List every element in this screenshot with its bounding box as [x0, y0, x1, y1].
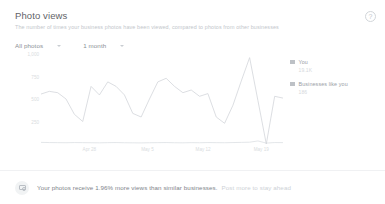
legend-item-you: You 19.1K [290, 59, 378, 73]
filter-time-range[interactable]: 1 month [83, 42, 124, 49]
footer-message: Your photos receive 1.96% more views tha… [37, 184, 218, 191]
page-title: Photo views [15, 10, 67, 21]
photo-views-card: Photo views The number of times your bus… [0, 0, 385, 204]
chart-container: 1,000750500250 Apr 28May 5May 12May 19 [15, 54, 283, 158]
series-line-you [41, 58, 283, 144]
legend-value-businesses-like-you: 186 [299, 89, 379, 95]
footer-banner: Your photos receive 1.96% more views tha… [0, 170, 385, 204]
y-axis: 1,000750500250 [15, 54, 41, 144]
chevron-down-icon [120, 45, 124, 47]
chart-svg [41, 54, 283, 144]
post-more-link[interactable]: Post more to stay ahead [222, 184, 291, 191]
legend-swatch-businesses-like-you [290, 82, 295, 87]
camera-icon [15, 181, 29, 195]
x-axis-tick: May 5 [141, 147, 154, 152]
y-axis-tick: 500 [31, 97, 39, 102]
legend-label-you: You [299, 59, 308, 65]
filter-all-photos[interactable]: All photos [15, 42, 61, 49]
y-axis-tick: 1,000 [28, 52, 40, 57]
x-axis-tick: Apr 28 [83, 147, 97, 152]
y-axis-tick: 250 [31, 119, 39, 124]
x-axis: Apr 28May 5May 12May 19 [41, 144, 283, 158]
legend-label-businesses-like-you: Businesses like you [299, 81, 348, 87]
legend-item-businesses-like-you: Businesses like you 186 [290, 81, 378, 95]
series-line-businesses-like-you [41, 141, 283, 143]
filter-row: All photos 1 month [15, 42, 124, 49]
legend-swatch-you [290, 60, 295, 65]
filter-all-photos-label: All photos [15, 42, 43, 49]
legend-value-you: 19.1K [299, 67, 379, 73]
y-axis-tick: 750 [31, 74, 39, 79]
page-subtitle: The number of times your business photos… [15, 24, 279, 30]
chart-legend: You 19.1K Businesses like you 186 [290, 59, 378, 103]
x-axis-tick: May 19 [254, 147, 269, 152]
filter-time-range-label: 1 month [83, 42, 106, 49]
chart-plot [41, 54, 283, 144]
x-axis-tick: May 12 [196, 147, 211, 152]
chevron-down-icon [57, 45, 61, 47]
help-question-icon[interactable]: ? [365, 11, 376, 22]
